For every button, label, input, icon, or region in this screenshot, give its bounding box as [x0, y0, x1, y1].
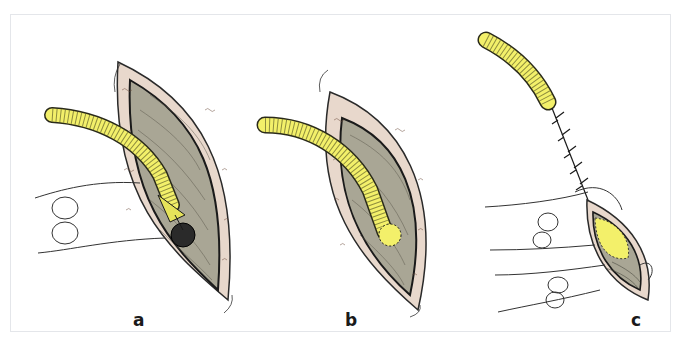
illustration-canvas [0, 0, 681, 347]
panel-c [485, 40, 652, 312]
opening-hole [171, 223, 195, 247]
suture-line [552, 108, 588, 200]
panel-label-b: b [345, 312, 357, 329]
panel-label-a: a [133, 312, 144, 329]
panel-a [35, 62, 232, 313]
panel-label-c: c [631, 312, 641, 329]
tube-tip [379, 224, 401, 246]
panel-b [265, 70, 426, 317]
